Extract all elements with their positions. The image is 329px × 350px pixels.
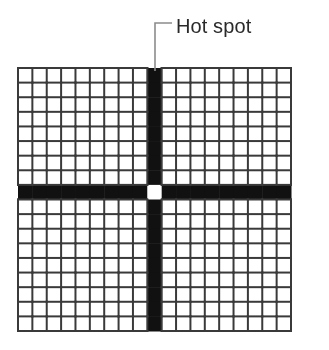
hot-spot-figure: Hot spot	[0, 0, 329, 350]
annotation-layer	[0, 0, 329, 350]
hot-spot-label: Hot spot	[176, 14, 251, 38]
leader-line-icon	[155, 23, 172, 71]
